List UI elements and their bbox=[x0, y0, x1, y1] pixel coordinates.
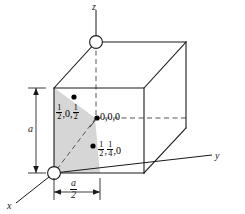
unit-cell-drawing bbox=[0, 0, 245, 214]
dimension-a-half-horizontal bbox=[54, 178, 100, 200]
unit-cell-figure: z y x a a 2 0,0,0 1 2 ,0, 1 2 1 2 , 1 4 … bbox=[0, 0, 245, 214]
x-axis-label: x bbox=[7, 201, 11, 211]
fraction-one-half-a: 1 2 bbox=[56, 104, 62, 121]
label-origin: 0,0,0 bbox=[100, 112, 120, 122]
atom-front-bottom-left-corner bbox=[48, 167, 61, 180]
half-cell-edge-label: a 2 bbox=[70, 178, 77, 200]
axis-lines bbox=[16, 10, 212, 203]
y-axis-label: y bbox=[215, 151, 219, 161]
fraction-one-quarter: 1 4 bbox=[107, 141, 113, 158]
dot-half-quarter-zero bbox=[90, 143, 95, 148]
atom-top-back-corner bbox=[90, 36, 103, 49]
dot-half-zero-half bbox=[71, 94, 76, 99]
fraction-one-half-c: 1 2 bbox=[98, 141, 104, 158]
label-half-zero-half: 1 2 ,0, 1 2 bbox=[56, 104, 79, 121]
cell-edge-length-label: a bbox=[28, 124, 33, 134]
fraction-one-half-b: 1 2 bbox=[73, 104, 79, 121]
half-edge-denominator: 2 bbox=[70, 190, 77, 201]
half-edge-numerator: a bbox=[70, 178, 77, 190]
trailing-zero: 0 bbox=[116, 145, 121, 156]
label-half-quarter-zero: 1 2 , 1 4 ,0 bbox=[98, 141, 121, 158]
z-axis-label: z bbox=[92, 2, 96, 12]
shaded-plane bbox=[54, 88, 100, 173]
x-axis-line bbox=[16, 173, 54, 203]
